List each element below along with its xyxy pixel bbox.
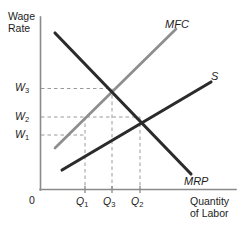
x-tick-q1-text: Q bbox=[76, 195, 84, 207]
x-tick-label-q1: Q1 bbox=[76, 196, 88, 208]
x-axis-title: Quantity of Labor bbox=[190, 196, 229, 220]
y-tick-label-w2: W2 bbox=[15, 111, 29, 123]
y-tick-w2-subscript: 2 bbox=[25, 115, 29, 124]
economics-diagram: Wage Rate Quantity of Labor 0 W3 W2 W1 Q… bbox=[0, 0, 245, 234]
y-tick-w3-subscript: 3 bbox=[25, 86, 29, 95]
origin-label: 0 bbox=[29, 195, 35, 207]
curve-s bbox=[62, 82, 211, 170]
curve-label-mfc: MFC bbox=[165, 18, 189, 30]
y-tick-w3-text: W bbox=[15, 81, 25, 93]
curve-label-mrp: MRP bbox=[184, 175, 208, 187]
x-tick-label-q2: Q2 bbox=[131, 196, 143, 208]
y-tick-w2-text: W bbox=[15, 110, 25, 122]
y-tick-w1-subscript: 1 bbox=[25, 133, 29, 142]
curve-label-s: S bbox=[211, 70, 218, 82]
x-tick-label-q3: Q3 bbox=[103, 196, 115, 208]
y-tick-label-w3: W3 bbox=[15, 82, 29, 94]
x-tick-q2-text: Q bbox=[131, 195, 139, 207]
y-axis-title: Wage Rate bbox=[8, 11, 35, 35]
curve-mfc bbox=[55, 29, 176, 148]
x-tick-q1-subscript: 1 bbox=[84, 200, 88, 209]
x-tick-q3-subscript: 3 bbox=[111, 200, 115, 209]
curve-mrp bbox=[55, 33, 191, 174]
y-tick-label-w1: W1 bbox=[15, 129, 29, 141]
x-tick-q3-text: Q bbox=[103, 195, 111, 207]
x-tick-q2-subscript: 2 bbox=[139, 200, 143, 209]
y-tick-w1-text: W bbox=[15, 128, 25, 140]
